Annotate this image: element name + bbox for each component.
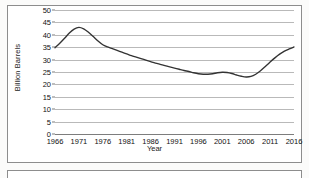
y-tick-label: 25 <box>43 68 51 77</box>
chart-panel: Billion Barrels 50454035302520151050 196… <box>7 5 302 163</box>
secondary-panel <box>7 170 302 178</box>
chart-inner: Billion Barrels 50454035302520151050 196… <box>8 6 301 162</box>
y-tick-label: 35 <box>43 43 51 52</box>
y-tick-label: 30 <box>43 55 51 64</box>
y-tick-label: 40 <box>43 30 51 39</box>
y-axis-title: Billion Barrels <box>13 28 22 108</box>
plot-area: 50454035302520151050 1966197119761981198… <box>55 10 294 134</box>
y-tick-label: 50 <box>43 6 51 15</box>
series-line-oil-reserves <box>55 10 294 134</box>
y-tick-label: 5 <box>47 117 51 126</box>
y-tick-label: 45 <box>43 18 51 27</box>
y-tick-label: 10 <box>43 105 51 114</box>
y-tick-label: 15 <box>43 92 51 101</box>
x-axis-title: Year <box>8 144 301 153</box>
y-tick-label: 20 <box>43 80 51 89</box>
chart-page: Billion Barrels 50454035302520151050 196… <box>0 0 309 178</box>
